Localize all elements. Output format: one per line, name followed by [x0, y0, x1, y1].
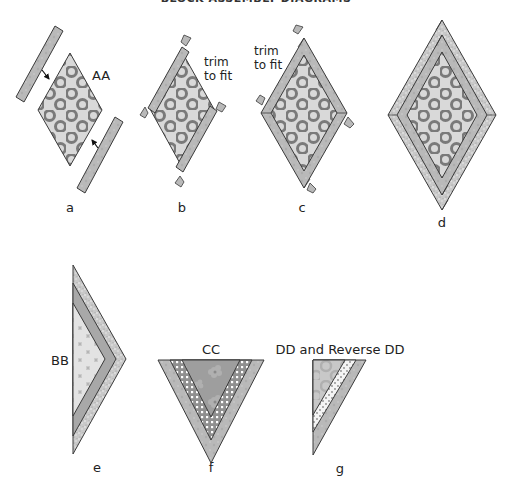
label-d: d: [438, 215, 446, 230]
trimmed-corner: [256, 95, 265, 105]
label-f: f: [209, 460, 214, 475]
diagram-c: trim to fit c: [254, 25, 354, 215]
trimmed-corner: [181, 35, 191, 46]
diagram-g: DD and Reverse DD g: [275, 342, 404, 476]
annotation-line: trim: [204, 55, 229, 69]
diagram-a: AA a: [16, 26, 123, 215]
diagram-e: BB e: [51, 265, 126, 475]
annotation-line: to fit: [204, 69, 232, 83]
diagram-f: CC f: [158, 342, 264, 475]
trimmed-corner: [344, 117, 354, 128]
annotation-trim-to-fit: trim to fit: [204, 55, 233, 83]
annotation-dd: DD and Reverse DD: [275, 342, 404, 357]
label-g: g: [336, 461, 344, 476]
diagram-d: d: [388, 20, 496, 230]
annotation-trim-to-fit: trim to fit: [254, 44, 283, 72]
trimmed-corner: [293, 25, 303, 34]
center-diamond: [271, 55, 337, 171]
annotation-bb: BB: [51, 353, 69, 368]
trimmed-corner: [175, 176, 184, 187]
arrow-icon: [42, 70, 49, 79]
label-b: b: [178, 200, 186, 215]
label-a: a: [66, 200, 74, 215]
annotation-line: to fit: [254, 58, 282, 72]
arrow-icon: [92, 140, 98, 148]
diagram-b: trim to fit b: [140, 35, 233, 215]
annotation-cc: CC: [202, 342, 220, 357]
label-e: e: [93, 460, 101, 475]
trimmed-corner: [216, 102, 226, 112]
page-heading: BLOCK ASSEMBLY DIAGRAMS: [161, 0, 352, 5]
trimmed-corner: [140, 107, 148, 118]
annotation-aa: AA: [92, 68, 110, 83]
label-c: c: [298, 200, 305, 215]
annotation-line: trim: [254, 44, 279, 58]
block-assembly-diagram: BLOCK ASSEMBLY DIAGRAMS AA a trim to fit…: [0, 0, 512, 493]
trimmed-corner: [307, 183, 316, 193]
